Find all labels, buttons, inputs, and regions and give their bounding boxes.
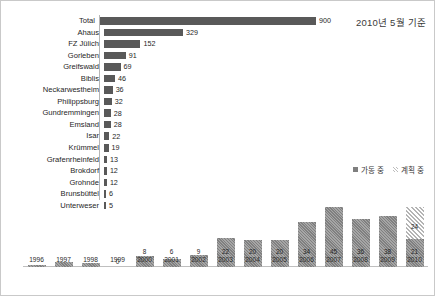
horizontal-bar-label: Isar <box>1 132 104 140</box>
horizontal-bar-label: Greifswald <box>1 63 104 71</box>
legend-item-operating: 가동 중 <box>353 164 384 175</box>
vertical-axis-tick-label: 2001 <box>158 256 185 263</box>
vertical-bar-column: 362008 <box>347 204 374 267</box>
horizontal-bar-track: 46 <box>104 75 331 83</box>
vertical-bar-segment-operating <box>28 265 46 267</box>
horizontal-bar-track: 36 <box>104 86 331 94</box>
chart-legend: 가동 중 계획 중 <box>353 164 424 175</box>
vertical-bar-column: 342006 <box>293 204 320 267</box>
horizontal-bar-label: Gorleben <box>1 52 104 60</box>
horizontal-bar-value: 28 <box>114 110 122 117</box>
horizontal-bar-label: Total <box>1 17 100 25</box>
vertical-bar-column: 01999 <box>104 204 131 267</box>
legend-label-operating: 가동 중 <box>361 164 384 175</box>
vertical-axis-tick-label: 2007 <box>320 256 347 263</box>
vertical-bar-stack <box>28 265 46 267</box>
horizontal-bar-row: Philippsburg32 <box>1 96 331 108</box>
horizontal-bar-value: 22 <box>112 133 120 140</box>
horizontal-bar-row: Gorleben91 <box>1 50 331 62</box>
vertical-axis-tick-label: 2008 <box>347 256 374 263</box>
vertical-bar-segment-operating: 20 <box>244 240 262 267</box>
horizontal-bar-row: Total900 <box>1 15 331 27</box>
legend-item-planned: 계획 중 <box>393 164 424 175</box>
horizontal-bar-track: 329 <box>104 29 331 37</box>
horizontal-bar-row: Grohnde12 <box>1 177 331 189</box>
horizontal-bar <box>104 98 112 106</box>
horizontal-bar <box>104 167 107 175</box>
horizontal-bar-value: 69 <box>124 63 132 70</box>
horizontal-bar-chart: Total900Ahaus329FZ Jülich152Gorleben91Gr… <box>1 15 331 200</box>
vertical-bar-stack: 20 <box>244 240 262 267</box>
legend-swatch-operating-icon <box>353 167 358 172</box>
horizontal-bar-value: 12 <box>110 179 118 186</box>
vertical-axis-tick-label: 1997 <box>50 256 77 263</box>
horizontal-bar-row: Neckarwestheim36 <box>1 84 331 96</box>
vertical-axis-tick-label: 1999 <box>104 256 131 263</box>
horizontal-bar <box>104 40 140 48</box>
horizontal-bar-track: 28 <box>104 121 331 129</box>
vertical-bar-value-operating: 45 <box>330 249 337 255</box>
horizontal-bar-label: Krümmel <box>1 144 104 152</box>
vertical-bar-stack <box>82 263 100 267</box>
vertical-bar-column: 452007 <box>320 204 347 267</box>
horizontal-bar-track: 22 <box>104 132 331 140</box>
vertical-bar-value-planned: 24 <box>411 224 418 230</box>
vertical-bar-column: 202004 <box>239 204 266 267</box>
horizontal-bar-track: 19 <box>104 144 331 152</box>
horizontal-bar <box>104 144 109 152</box>
horizontal-bar-value: 46 <box>118 75 126 82</box>
horizontal-bar-row: Krümmel19 <box>1 142 331 154</box>
vertical-axis-tick-label: 2009 <box>374 256 401 263</box>
vertical-bar-column: 1998 <box>77 204 104 267</box>
horizontal-bar-track: 28 <box>104 109 331 117</box>
vertical-bar-column: 222003 <box>212 204 239 267</box>
horizontal-bar-row: Greifswald69 <box>1 61 331 73</box>
horizontal-bar-value: 152 <box>143 40 155 47</box>
horizontal-bar-track: 91 <box>104 52 331 60</box>
horizontal-bar <box>104 52 126 60</box>
horizontal-bar-row: FZ Jülich152 <box>1 38 331 50</box>
vertical-bar-value-operating: 22 <box>222 249 229 255</box>
horizontal-bar <box>104 75 115 83</box>
horizontal-bar-value: 32 <box>115 98 123 105</box>
horizontal-bar <box>104 29 183 37</box>
horizontal-bar-track: 13 <box>104 156 331 164</box>
horizontal-bar <box>104 86 113 94</box>
horizontal-bar-label: Neckarwestheim <box>1 86 104 94</box>
vertical-bar-column: 202005 <box>266 204 293 267</box>
vertical-bar-column: 82000 <box>131 204 158 267</box>
horizontal-bar-row: Biblis46 <box>1 73 331 85</box>
legend-swatch-planned-icon <box>393 167 398 172</box>
vertical-bar-segment-planned: 24 <box>406 207 424 239</box>
horizontal-bar-track: 12 <box>104 167 331 175</box>
vertical-axis-tick-label: 2002 <box>185 256 212 263</box>
horizontal-bar <box>104 63 121 71</box>
horizontal-bar-row: Isar22 <box>1 130 331 142</box>
vertical-bar-value-operating: 21 <box>411 249 418 255</box>
vertical-axis-tick-label: 2005 <box>266 256 293 263</box>
horizontal-bar-row: Gundremmingen28 <box>1 107 331 119</box>
vertical-axis-tick-label: 2003 <box>212 256 239 263</box>
horizontal-bar-label: Grohnde <box>1 179 104 187</box>
vertical-bar-column: 24212010 <box>401 204 428 267</box>
vertical-bar-stack: 20 <box>271 240 289 267</box>
vertical-bar-value-operating: 36 <box>357 249 364 255</box>
horizontal-bar-track: 152 <box>104 40 331 48</box>
horizontal-bar-value: 19 <box>112 144 120 151</box>
horizontal-bar-value: 36 <box>116 86 124 93</box>
vertical-bar-value-operating: 20 <box>276 249 283 255</box>
horizontal-bar-row: Brokdorf12 <box>1 165 331 177</box>
horizontal-bar-label: Brokdorf <box>1 167 104 175</box>
horizontal-bar-track: 900 <box>100 17 331 25</box>
vertical-bar-value-operating: 9 <box>197 249 201 255</box>
vertical-bar-segment-operating: 20 <box>271 240 289 267</box>
vertical-bar-segment-operating <box>82 263 100 267</box>
horizontal-bar-label: Ahaus <box>1 29 104 37</box>
horizontal-bar-value: 12 <box>110 167 118 174</box>
vertical-bar-value-operating: 20 <box>249 249 256 255</box>
vertical-bar-column: 92002 <box>185 204 212 267</box>
vertical-bar-column: 382009 <box>374 204 401 267</box>
horizontal-bar-value: 900 <box>319 17 331 24</box>
vertical-bar-columns: 1996199719980199982000620019200222200320… <box>23 204 428 267</box>
horizontal-bar-value: 13 <box>110 156 118 163</box>
